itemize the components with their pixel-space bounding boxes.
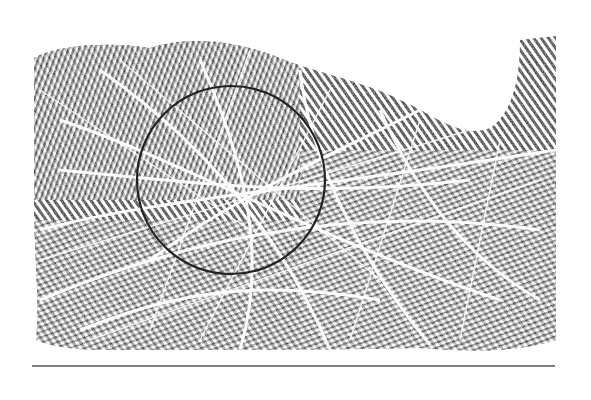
palmprint-image: [0, 0, 591, 400]
palmprint-figure: [0, 0, 591, 400]
palm-texture: [0, 0, 591, 400]
